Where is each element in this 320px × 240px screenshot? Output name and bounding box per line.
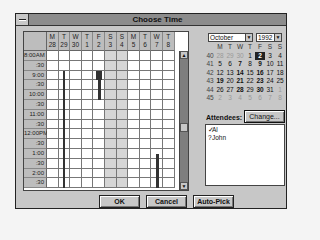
calendar-day[interactable]: 26 bbox=[215, 86, 225, 95]
calendar-day[interactable]: 28 bbox=[235, 86, 245, 95]
scroll-thumb[interactable] bbox=[180, 123, 188, 132]
time-slot[interactable] bbox=[70, 110, 82, 120]
time-slot[interactable] bbox=[163, 120, 175, 130]
time-slot[interactable] bbox=[93, 100, 105, 110]
calendar-day[interactable]: 21 bbox=[235, 77, 245, 86]
time-slot[interactable] bbox=[151, 51, 163, 61]
time-slot[interactable] bbox=[128, 80, 140, 90]
time-slot[interactable] bbox=[117, 100, 129, 110]
time-slot[interactable] bbox=[47, 71, 59, 81]
time-slot[interactable] bbox=[140, 129, 152, 139]
time-slot[interactable] bbox=[163, 90, 175, 100]
time-slot[interactable] bbox=[70, 51, 82, 61]
time-slot[interactable] bbox=[163, 71, 175, 81]
calendar-day[interactable]: 13 bbox=[225, 69, 235, 78]
time-slot[interactable] bbox=[93, 129, 105, 139]
time-slot[interactable] bbox=[93, 139, 105, 149]
time-slot[interactable] bbox=[105, 149, 117, 159]
time-slot[interactable] bbox=[105, 100, 117, 110]
time-slot[interactable] bbox=[70, 129, 82, 139]
time-slot[interactable] bbox=[82, 129, 94, 139]
time-slot[interactable] bbox=[128, 149, 140, 159]
time-slot[interactable] bbox=[105, 129, 117, 139]
calendar-day[interactable]: 1 bbox=[245, 52, 255, 61]
time-slot[interactable] bbox=[93, 61, 105, 71]
time-slot[interactable] bbox=[82, 51, 94, 61]
attendee-item[interactable]: ?John bbox=[208, 134, 282, 142]
time-slot[interactable] bbox=[82, 110, 94, 120]
calendar-day[interactable]: 20 bbox=[225, 77, 235, 86]
time-slot[interactable] bbox=[105, 71, 117, 81]
calendar-day[interactable]: 10 bbox=[265, 60, 275, 69]
calendar-day[interactable]: 8 bbox=[245, 60, 255, 69]
calendar-day[interactable]: 6 bbox=[255, 94, 265, 103]
schedule-grid[interactable]: M28T29W30T1F2S3S4M5T6W7T88:00AM:309:00:3… bbox=[23, 31, 189, 191]
time-slot[interactable] bbox=[151, 110, 163, 120]
time-slot[interactable] bbox=[82, 149, 94, 159]
time-slot[interactable] bbox=[151, 139, 163, 149]
calendar-day[interactable]: 7 bbox=[235, 60, 245, 69]
calendar-day[interactable]: 29 bbox=[225, 52, 235, 61]
time-slot[interactable] bbox=[93, 169, 105, 179]
time-slot[interactable] bbox=[47, 80, 59, 90]
calendar-day[interactable]: 11 bbox=[275, 60, 285, 69]
time-slot[interactable] bbox=[117, 129, 129, 139]
time-slot[interactable] bbox=[128, 159, 140, 169]
time-slot[interactable] bbox=[70, 149, 82, 159]
time-slot[interactable] bbox=[140, 110, 152, 120]
time-slot[interactable] bbox=[105, 159, 117, 169]
time-slot[interactable] bbox=[70, 61, 82, 71]
time-slot[interactable] bbox=[140, 61, 152, 71]
change-attendees-button[interactable]: Change... bbox=[244, 110, 285, 123]
time-slot[interactable] bbox=[70, 169, 82, 179]
time-slot[interactable] bbox=[128, 71, 140, 81]
time-slot[interactable] bbox=[140, 178, 152, 188]
time-slot[interactable] bbox=[140, 149, 152, 159]
time-slot[interactable] bbox=[47, 149, 59, 159]
calendar-day[interactable]: 23 bbox=[255, 77, 265, 86]
time-slot[interactable] bbox=[117, 51, 129, 61]
time-slot[interactable] bbox=[140, 71, 152, 81]
calendar-day[interactable]: 7 bbox=[265, 94, 275, 103]
time-slot[interactable] bbox=[47, 110, 59, 120]
time-slot[interactable] bbox=[105, 139, 117, 149]
time-slot[interactable] bbox=[128, 51, 140, 61]
time-slot[interactable] bbox=[82, 159, 94, 169]
time-slot[interactable] bbox=[82, 169, 94, 179]
calendar-day[interactable]: 3 bbox=[225, 94, 235, 103]
time-slot[interactable] bbox=[140, 90, 152, 100]
time-slot[interactable] bbox=[163, 129, 175, 139]
time-slot[interactable] bbox=[151, 120, 163, 130]
time-slot[interactable] bbox=[70, 178, 82, 188]
time-slot[interactable] bbox=[93, 110, 105, 120]
time-slot[interactable] bbox=[105, 178, 117, 188]
time-slot[interactable] bbox=[82, 80, 94, 90]
time-slot[interactable] bbox=[117, 169, 129, 179]
time-slot[interactable] bbox=[128, 100, 140, 110]
calendar-day[interactable]: 22 bbox=[245, 77, 255, 86]
time-slot[interactable] bbox=[105, 61, 117, 71]
time-slot[interactable] bbox=[128, 129, 140, 139]
calendar-day[interactable]: 24 bbox=[265, 77, 275, 86]
calendar-day[interactable]: 18 bbox=[275, 69, 285, 78]
time-slot[interactable] bbox=[82, 71, 94, 81]
scroll-down-icon[interactable]: ▼ bbox=[180, 182, 188, 190]
calendar-day[interactable]: 17 bbox=[265, 69, 275, 78]
time-slot[interactable] bbox=[82, 120, 94, 130]
time-slot[interactable] bbox=[82, 139, 94, 149]
time-slot[interactable] bbox=[47, 139, 59, 149]
time-slot[interactable] bbox=[128, 169, 140, 179]
calendar-day[interactable]: 9 bbox=[255, 60, 265, 69]
time-slot[interactable] bbox=[70, 71, 82, 81]
calendar-day[interactable]: 1 bbox=[275, 86, 285, 95]
calendar-day[interactable]: 16 bbox=[255, 69, 265, 78]
time-slot[interactable] bbox=[82, 90, 94, 100]
time-slot[interactable] bbox=[128, 61, 140, 71]
time-slot[interactable] bbox=[163, 100, 175, 110]
calendar-day[interactable]: 31 bbox=[265, 86, 275, 95]
time-slot[interactable] bbox=[105, 80, 117, 90]
selected-date[interactable]: 2 bbox=[255, 52, 265, 61]
calendar-day[interactable]: 2 bbox=[215, 94, 225, 103]
time-slot[interactable] bbox=[47, 61, 59, 71]
time-slot[interactable] bbox=[47, 129, 59, 139]
